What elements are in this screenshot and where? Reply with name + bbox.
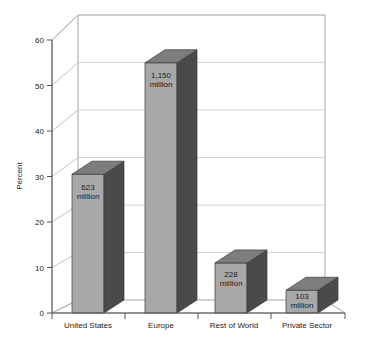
bar-value-label-line1: 1,150 xyxy=(151,71,172,80)
bar-value-label-line2: million xyxy=(77,192,100,201)
bar-side-face xyxy=(104,161,124,313)
y-tick-label-30: 30 xyxy=(35,173,44,182)
bar-europe[interactable]: 1,150 million xyxy=(145,50,197,313)
bar-chart: 60 50 40 30 20 10 0 Percent 623 million xyxy=(0,0,371,338)
x-tick-label-private-sector: Private Sector xyxy=(282,321,333,330)
bar-value-label-line2: million xyxy=(291,301,314,310)
bar-value-label-line2: million xyxy=(220,279,243,288)
y-tick-label-20: 20 xyxy=(35,218,44,227)
bar-front-face xyxy=(145,63,177,313)
x-tick-label-rest-of-world: Rest of World xyxy=(210,321,258,330)
chart-canvas: 60 50 40 30 20 10 0 Percent 623 million xyxy=(0,0,371,338)
y-tick-label-60: 60 xyxy=(35,36,44,45)
bar-value-label-line2: million xyxy=(150,80,173,89)
y-tick-label-10: 10 xyxy=(35,264,44,273)
bar-rest-of-world[interactable]: 228 million xyxy=(215,250,267,313)
bar-value-label-line1: 228 xyxy=(224,270,238,279)
y-tick-label-50: 50 xyxy=(35,82,44,91)
bar-value-label-line1: 103 xyxy=(295,292,309,301)
x-tick-label-united-states: United States xyxy=(64,321,112,330)
x-axis: United States Europe Rest of World Priva… xyxy=(52,313,345,330)
bar-side-face xyxy=(177,50,197,313)
y-axis: 60 50 40 30 20 10 0 Percent xyxy=(15,36,52,318)
y-tick-label-40: 40 xyxy=(35,127,44,136)
x-tick-label-europe: Europe xyxy=(148,321,174,330)
y-tick-label-0: 0 xyxy=(40,309,45,318)
y-axis-title: Percent xyxy=(15,161,24,189)
bar-united-states[interactable]: 623 million xyxy=(72,161,124,313)
bar-value-label-line1: 623 xyxy=(81,183,95,192)
